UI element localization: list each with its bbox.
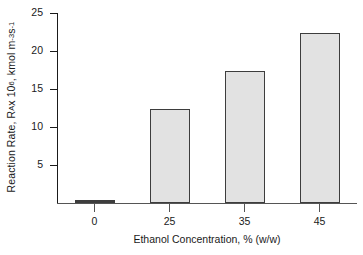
y-axis-tick-mark bbox=[50, 13, 57, 14]
y-axis-title: Reaction Rate, RA x 106, kmol m-3 s-1 bbox=[2, 2, 20, 212]
y-axis-tick-mark bbox=[50, 127, 57, 128]
y-axis-title-unit-exp2: -1 bbox=[7, 22, 16, 29]
y-axis-tick: 25 bbox=[0, 13, 57, 14]
y-axis-tick-label: 10 bbox=[21, 121, 43, 131]
y-axis-title-exponent: 6 bbox=[7, 81, 16, 85]
y-axis-tick: 20 bbox=[0, 51, 57, 52]
y-axis-title-prefix: Reaction Rate, R bbox=[5, 111, 17, 193]
x-axis-tick-label: 45 bbox=[300, 215, 340, 227]
y-axis-tick-label: 20 bbox=[21, 45, 43, 55]
y-axis-tick-mark bbox=[50, 165, 57, 166]
bar-45 bbox=[300, 33, 340, 203]
y-axis-title-unit-prefix: , kmol m bbox=[5, 41, 17, 81]
x-axis-tick-label: 25 bbox=[150, 215, 190, 227]
y-axis-title-unit-mid: s bbox=[5, 28, 17, 33]
y-axis-line bbox=[57, 13, 58, 204]
y-axis-tick-label: 25 bbox=[21, 7, 43, 17]
y-axis-tick-mark bbox=[50, 51, 57, 52]
x-axis-tick-label: 0 bbox=[75, 215, 115, 227]
x-axis-tick-label: 35 bbox=[225, 215, 265, 227]
bar-0 bbox=[75, 200, 115, 202]
x-axis-tick-mark bbox=[169, 204, 170, 212]
y-axis-tick: 5 bbox=[0, 165, 57, 166]
x-axis-tick-mark bbox=[94, 204, 95, 212]
y-axis-title-unit-exp1: -3 bbox=[7, 34, 16, 41]
y-axis-tick-mark bbox=[50, 89, 57, 90]
bar-chart: Reaction Rate, RA x 106, kmol m-3 s-1 25… bbox=[0, 0, 363, 255]
bar-25 bbox=[150, 109, 190, 203]
y-axis-tick: 15 bbox=[0, 89, 57, 90]
y-axis-title-subscript: A bbox=[7, 106, 16, 111]
x-axis-tick-mark bbox=[244, 204, 245, 212]
x-axis-line bbox=[57, 203, 357, 205]
y-axis-tick-label: 15 bbox=[21, 83, 43, 93]
y-axis-tick-label: 5 bbox=[21, 159, 43, 169]
x-axis-title: Ethanol Concentration, % (w/w) bbox=[57, 233, 357, 245]
y-axis-tick: 10 bbox=[0, 127, 57, 128]
bar-35 bbox=[225, 71, 265, 203]
x-axis-tick-mark bbox=[319, 204, 320, 212]
